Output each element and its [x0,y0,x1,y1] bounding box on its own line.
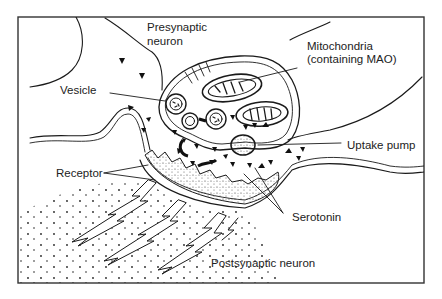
label-vesicle: Vesicle [60,84,96,96]
label-mitochondria-line1: Mitochondria [307,40,373,52]
label-presynaptic-line2: neuron [147,35,183,47]
label-postsynaptic: Postsynaptic neuron [211,257,315,269]
label-presynaptic-line1: Presynaptic [147,21,207,33]
uptake-pump [231,135,255,155]
label-serotonin: Serotonin [292,211,341,223]
synapse-diagram: Presynaptic neuron Mitochondria (contain… [0,0,442,299]
label-receptor: Receptor [56,167,103,179]
label-uptake-pump: Uptake pump [347,139,415,151]
label-mitochondria-line2: (containing MAO) [307,53,397,65]
